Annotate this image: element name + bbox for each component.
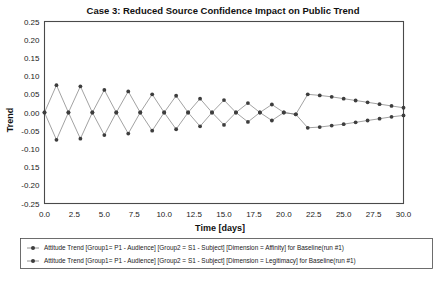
series-data-point [43,111,47,115]
legend-marker-icon [31,246,35,250]
x-tick-label: 0.0 [39,210,51,219]
series-data-point [174,94,178,98]
y-tick-label: -0.25 [21,200,40,209]
series-data-point [222,123,226,127]
series-data-point [90,111,94,115]
series-data-point [390,115,394,119]
series-data-point [222,98,226,102]
legend-item-2[interactable]: Attitude Trend [Group1= P1 - Audience] [… [27,257,356,265]
series-data-point [330,124,334,128]
series-data-point [342,122,346,126]
series-data-point [198,124,202,128]
plot-area-frame [45,22,404,204]
series-data-point [390,104,394,108]
series-data-point [138,111,142,115]
series-data-point [55,83,59,87]
y-tick-label: -0.20 [21,181,40,190]
x-tick-label: 10.0 [156,210,172,219]
y-tick-label: 0.15 [24,54,40,63]
series-data-point [282,111,286,115]
series-data-point [318,125,322,129]
series-data-point [79,84,83,88]
legend-item-1[interactable]: Attitude Trend [Group1= P1 - Audience] [… [27,244,344,252]
series-data-point [126,132,130,136]
series-data-point [378,102,382,106]
x-tick-label: 30.0 [396,210,412,219]
chart-title: Case 3: Reduced Source Confidence Impact… [87,5,360,16]
series-data-point [198,97,202,101]
series-data-point [366,100,370,104]
y-axis-title: Trend [5,108,15,133]
series-data-point [330,95,334,99]
series-data-point [270,119,274,123]
legend-label: Attitude Trend [Group1= P1 - Audience] [… [44,244,344,252]
y-tick-label: 0.15 [24,163,40,172]
series-data-point [150,129,154,133]
x-tick-label: 7.5 [129,210,141,219]
x-axis-title: Time [days] [195,223,245,233]
y-tick-label: 0.25 [24,18,40,27]
x-tick-label: 25.0 [336,210,352,219]
y-tick-label: 0.10 [24,72,40,81]
series-data-point [210,111,214,115]
series-data-point [79,137,83,141]
series-data-point [366,119,370,123]
series-data-point [342,97,346,101]
series-data-point [126,89,130,93]
series-data-point [402,114,406,118]
series-data-point [174,127,178,131]
series-data-point [234,111,238,115]
series-data-point [378,117,382,121]
legend-label: Attitude Trend [Group1= P1 - Audience] [… [44,257,356,265]
x-tick-label: 20.0 [276,210,292,219]
x-tick-label: 2.5 [69,210,81,219]
x-tick-label: 5.0 [99,210,111,219]
series-data-point [306,126,310,130]
series-data-point [354,99,358,103]
series-data-point [258,111,262,115]
series-data-point [318,93,322,97]
x-tick-label: 12.5 [186,210,202,219]
x-tick-label: 27.5 [366,210,382,219]
series-data-point [354,120,358,124]
series-data-point [306,92,310,96]
series-data-point [55,138,59,142]
series-data-point [102,88,106,92]
series-data-point [186,111,190,115]
y-tick-label: 0.05 [24,90,40,99]
x-tick-label: 22.5 [306,210,322,219]
y-tick-label: -0.05 [21,127,40,136]
series-data-point [162,111,166,115]
y-tick-label: 0.20 [24,36,40,45]
series-data-point [114,111,118,115]
series-data-point [294,112,298,116]
y-tick-label: 0.00 [24,109,40,118]
x-tick-label: 17.5 [246,210,262,219]
series-data-point [150,92,154,96]
series-data-point [102,133,106,137]
chart-figure: Case 3: Reduced Source Confidence Impact… [0,0,446,287]
legend-marker-icon [31,259,35,263]
x-tick-label: 15.0 [216,210,232,219]
series-data-point [270,103,274,107]
series-data-point [402,106,406,110]
series-data-point [246,120,250,124]
y-tick-label: -0.10 [21,145,40,154]
series-data-point [67,111,71,115]
series-data-point [246,101,250,105]
